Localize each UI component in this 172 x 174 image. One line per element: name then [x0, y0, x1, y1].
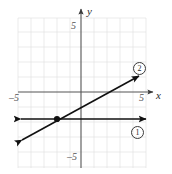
line-2-tag: 2 [133, 62, 146, 75]
x-axis-label: x [156, 90, 161, 101]
y-axis-tick-negative-5: –5 [67, 152, 77, 162]
line-1-tag: 1 [131, 126, 144, 139]
intersection-point [54, 116, 60, 122]
x-axis-tick-5: 5 [139, 93, 144, 103]
x-axis-tick-negative-5: –5 [9, 93, 19, 103]
coordinate-plane-figure: –5 5 5 –5 x y 2 1 [0, 0, 172, 174]
y-axis-tick-5: 5 [71, 21, 76, 31]
grid-lines [18, 18, 146, 168]
graph-canvas [0, 0, 172, 174]
y-axis-label: y [87, 6, 92, 17]
